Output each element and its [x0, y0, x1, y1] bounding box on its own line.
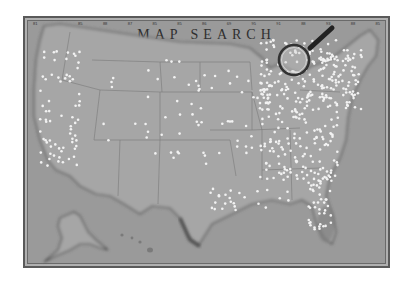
map-pin	[74, 122, 77, 125]
map-pin	[278, 112, 281, 115]
map-pin	[305, 147, 308, 150]
map-pin	[204, 154, 207, 157]
map-pin	[324, 144, 327, 147]
map-pin	[303, 153, 306, 156]
map-pin	[205, 162, 208, 165]
map-pin	[58, 147, 61, 150]
map-pin	[308, 219, 311, 222]
map-pin	[265, 102, 268, 105]
map-pin	[336, 111, 339, 114]
map-pin	[41, 105, 44, 108]
map-pin	[40, 151, 43, 154]
map-pin	[60, 115, 63, 118]
map-pin	[341, 80, 344, 83]
map-pin	[251, 146, 254, 149]
map-pin	[329, 140, 332, 143]
map-pin	[57, 160, 60, 163]
map-pin	[57, 76, 60, 79]
map-pin	[278, 140, 281, 143]
map-pin	[176, 151, 179, 154]
map-pin	[214, 75, 217, 78]
map-pin	[110, 81, 113, 84]
map-pin	[259, 82, 262, 85]
map-pin	[58, 156, 61, 159]
map-pin	[318, 160, 321, 163]
map-pin	[330, 214, 333, 217]
map-pin	[347, 105, 350, 108]
map-pin	[317, 84, 320, 87]
map-pin	[230, 201, 233, 204]
map-pin	[306, 101, 309, 104]
map-pin	[55, 50, 58, 53]
map-pin	[323, 98, 326, 101]
map-pin	[324, 125, 327, 128]
map-pin	[323, 201, 326, 204]
map-pin	[347, 54, 350, 57]
map-pin	[296, 111, 299, 114]
map-pin	[172, 156, 175, 159]
map-pin	[252, 96, 255, 99]
map-pin	[229, 189, 232, 192]
map-pin	[68, 75, 71, 78]
map-pin	[74, 148, 77, 151]
map-pin	[202, 152, 205, 155]
map-pin	[76, 67, 79, 70]
map-pin	[111, 86, 114, 89]
map-pin	[44, 78, 47, 81]
map-pin	[261, 108, 264, 111]
map-pin	[78, 51, 81, 54]
map-pin	[307, 205, 310, 208]
map-pin	[245, 152, 248, 155]
map-pin	[304, 167, 307, 170]
map-pin	[347, 57, 350, 60]
map-pin	[147, 69, 150, 72]
map-pin	[65, 58, 68, 61]
map-pin	[354, 106, 357, 109]
map-pin	[299, 137, 302, 140]
map-pin	[213, 208, 216, 211]
map-pin	[322, 225, 325, 228]
map-pin	[321, 95, 324, 98]
map-pin	[212, 188, 215, 191]
map-pin	[260, 149, 263, 152]
map-pin	[319, 223, 322, 226]
map-pin	[319, 168, 322, 171]
map-pin	[346, 49, 349, 52]
map-pin	[260, 93, 263, 96]
map-pin	[263, 75, 266, 78]
map-pin	[352, 57, 355, 60]
map-pin	[281, 107, 284, 110]
map-pin	[62, 161, 65, 164]
map-pin	[307, 182, 310, 185]
map-pin	[345, 58, 348, 61]
map-pin	[269, 138, 272, 141]
map-pin	[294, 108, 297, 111]
map-pin	[330, 179, 333, 182]
map-pin	[48, 158, 51, 161]
map-pin	[312, 109, 315, 112]
map-pin	[283, 172, 286, 175]
map-pin	[164, 116, 167, 119]
map-pin	[281, 121, 284, 124]
map-pin	[269, 93, 272, 96]
map-pin	[357, 92, 360, 95]
map-pin	[69, 132, 72, 135]
map-pin	[160, 134, 163, 137]
map-pin	[299, 101, 302, 104]
map-pin	[265, 168, 268, 171]
map-pin	[297, 82, 300, 85]
map-pin	[260, 64, 263, 67]
map-pin	[43, 56, 46, 59]
map-pin	[173, 76, 176, 79]
map-pin	[39, 118, 42, 121]
map-pin	[317, 201, 320, 204]
map-pin	[256, 97, 259, 100]
map-pin	[233, 202, 236, 205]
map-pin	[196, 121, 199, 124]
map-pin	[277, 155, 280, 158]
map-pin	[335, 84, 338, 87]
map-pin	[261, 88, 264, 91]
map-pin	[327, 205, 330, 208]
map-pin	[319, 148, 322, 151]
map-pin	[72, 78, 75, 81]
